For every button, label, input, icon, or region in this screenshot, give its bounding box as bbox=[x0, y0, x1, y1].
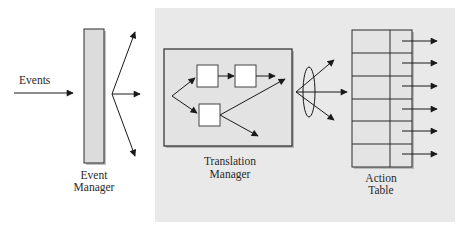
state-box-2 bbox=[235, 65, 256, 87]
events-label: Events bbox=[19, 74, 51, 86]
dispatch-arrow-down-icon bbox=[112, 94, 135, 156]
dispatch-arrows bbox=[112, 32, 140, 156]
translation-manager-box bbox=[164, 49, 292, 146]
events-input: Events bbox=[14, 74, 73, 93]
dispatch-arrow-up-icon bbox=[112, 32, 135, 94]
translation-manager-label-line2: Manager bbox=[210, 168, 251, 181]
state-box-1 bbox=[197, 65, 218, 87]
event-translation-diagram: Events Event Manager Translation Manager bbox=[0, 0, 468, 236]
event-manager-label-line1: Event bbox=[81, 169, 109, 181]
state-box-3 bbox=[199, 104, 220, 126]
event-manager: Event Manager bbox=[74, 29, 115, 194]
action-table-label-line1: Action bbox=[365, 172, 397, 184]
event-manager-bar bbox=[84, 29, 104, 163]
event-manager-label-line2: Manager bbox=[74, 181, 115, 194]
action-table-label-line2: Table bbox=[368, 184, 393, 196]
translation-manager-label-line1: Translation bbox=[204, 155, 256, 167]
